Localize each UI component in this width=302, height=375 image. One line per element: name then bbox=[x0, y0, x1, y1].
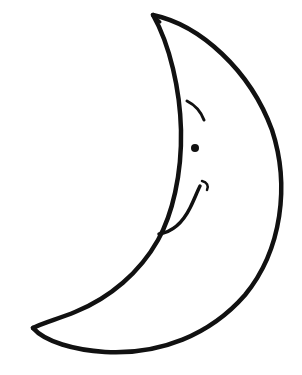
eye bbox=[191, 144, 199, 152]
eyebrow bbox=[187, 101, 204, 120]
moon-outer-edge bbox=[33, 15, 281, 352]
moon-illustration: crescent moon with face bbox=[0, 0, 302, 375]
smile-dimple bbox=[202, 181, 208, 190]
crescent-moon-icon bbox=[0, 0, 302, 375]
moon-inner-edge bbox=[33, 15, 181, 328]
